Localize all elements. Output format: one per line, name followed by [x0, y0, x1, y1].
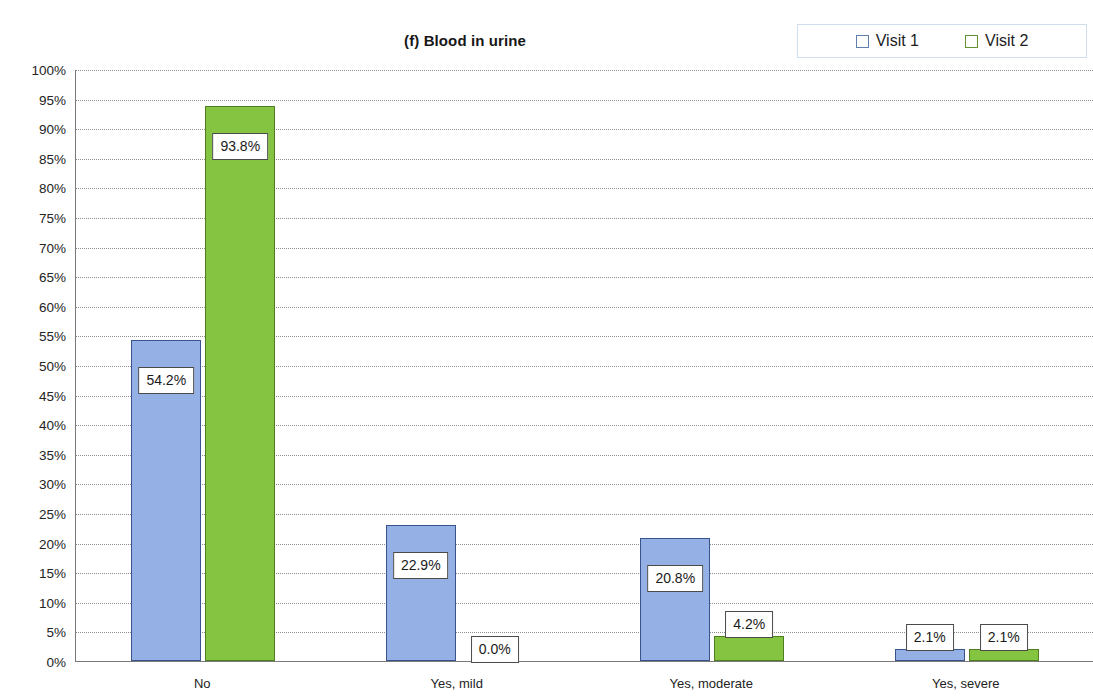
legend-swatch-icon-visit-1	[856, 35, 869, 48]
y-axis-tick-label: 15%	[0, 566, 66, 581]
y-axis-tick-label: 35%	[0, 447, 66, 462]
bar-visit-2-no	[205, 106, 275, 661]
data-label: 0.0%	[471, 636, 519, 663]
legend-item-visit-1: Visit 1	[856, 33, 919, 49]
y-axis-tick-label: 45%	[0, 388, 66, 403]
data-label: 4.2%	[725, 611, 773, 638]
y-axis-tick-label: 95%	[0, 92, 66, 107]
x-axis-tick-label: Yes, mild	[431, 676, 483, 691]
gridline	[76, 70, 1093, 71]
bar-visit-2-yes-moderate	[714, 636, 784, 661]
y-axis-tick-label: 100%	[0, 63, 66, 78]
data-label: 2.1%	[906, 624, 954, 651]
y-axis-tick-label: 55%	[0, 329, 66, 344]
y-axis-tick-label: 75%	[0, 211, 66, 226]
chart-title: (f) Blood in urine	[0, 32, 930, 49]
data-label: 22.9%	[393, 552, 449, 579]
gridline	[76, 100, 1093, 101]
legend-label-visit-2: Visit 2	[985, 33, 1028, 49]
y-axis-tick-label: 65%	[0, 270, 66, 285]
legend-swatch-icon-visit-2	[965, 35, 978, 48]
legend-label-visit-1: Visit 1	[876, 33, 919, 49]
x-axis-tick-label: No	[194, 676, 211, 691]
y-axis-tick-label: 40%	[0, 418, 66, 433]
y-axis-tick-label: 0%	[0, 655, 66, 670]
x-axis-tick-label: Yes, severe	[932, 676, 999, 691]
y-axis-tick-label: 30%	[0, 477, 66, 492]
data-label: 93.8%	[212, 133, 268, 160]
y-axis-tick-label: 90%	[0, 122, 66, 137]
x-axis-tick-label: Yes, moderate	[670, 676, 753, 691]
y-axis-tick-label: 20%	[0, 536, 66, 551]
y-axis-tick-label: 70%	[0, 240, 66, 255]
data-label: 20.8%	[647, 565, 703, 592]
data-label: 54.2%	[138, 367, 194, 394]
legend-item-visit-2: Visit 2	[965, 33, 1028, 49]
data-label: 2.1%	[980, 624, 1028, 651]
y-axis-tick-label: 50%	[0, 359, 66, 374]
bar-visit-1-yes-moderate	[640, 538, 710, 661]
y-axis-tick-label: 85%	[0, 151, 66, 166]
bar-chart: (f) Blood in urine Visit 1 Visit 2 100%9…	[0, 0, 1093, 700]
y-axis-tick-label: 10%	[0, 595, 66, 610]
y-axis-tick-label: 80%	[0, 181, 66, 196]
y-axis-tick-label: 25%	[0, 507, 66, 522]
y-axis-tick-label: 60%	[0, 299, 66, 314]
chart-legend: Visit 1 Visit 2	[797, 24, 1087, 58]
bar-visit-1-yes-mild	[386, 525, 456, 661]
plot-area: 54.2%93.8%22.9%0.0%20.8%4.2%2.1%2.1%	[75, 70, 1093, 662]
y-axis-tick-label: 5%	[0, 625, 66, 640]
